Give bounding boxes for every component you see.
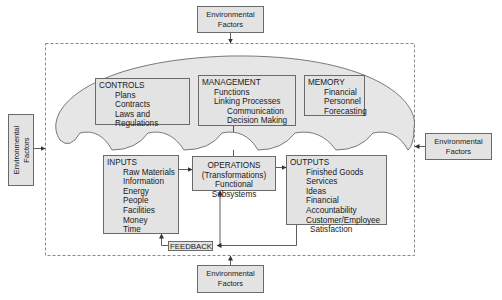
management-box: MANAGEMENT Functions Linking Processes C… xyxy=(198,75,296,126)
outputs-item: Customer/Employee xyxy=(290,216,383,226)
outputs-box: OUTPUTS Finished Goods Services Ideas Fi… xyxy=(286,155,387,225)
env-factors-bottom: Environmental Factors xyxy=(197,265,264,293)
memory-box: MEMORY Financial Personnel Forecasting xyxy=(304,75,365,116)
operations-title: OPERATIONS xyxy=(196,161,272,171)
controls-item: Laws and Regulations xyxy=(99,110,186,129)
env-left-line1: Environmental xyxy=(12,115,22,185)
outputs-item: Ideas xyxy=(290,187,383,197)
management-item: Linking Processes xyxy=(202,97,292,107)
env-bottom-line1: Environmental xyxy=(198,269,263,279)
inputs-box: INPUTS Raw Materials Information Energy … xyxy=(103,155,179,234)
controls-box: CONTROLS Plans Contracts Laws and Regula… xyxy=(95,78,190,125)
memory-item: Forecasting xyxy=(308,107,361,117)
feedback-label: FEEDBACK xyxy=(168,241,213,251)
inputs-item: Money xyxy=(107,216,175,226)
management-title: MANAGEMENT xyxy=(202,78,292,88)
inputs-item: Energy xyxy=(107,187,175,197)
open-systems-diagram: Environmental Factors Environmental Fact… xyxy=(0,0,502,300)
operations-subtitle: (Transformations) xyxy=(196,171,272,181)
env-right-line2: Factors xyxy=(426,147,491,157)
management-subitem: Decision Making xyxy=(202,116,292,126)
env-bottom-line2: Factors xyxy=(198,279,263,289)
inputs-item: People xyxy=(107,196,175,206)
outputs-item: Financial Accountability xyxy=(290,196,383,215)
memory-item: Financial xyxy=(308,88,361,98)
management-item: Functions xyxy=(202,88,292,98)
env-left-line2: Factors xyxy=(22,115,32,185)
controls-item: Contracts xyxy=(99,100,186,110)
inputs-item: Information xyxy=(107,177,175,187)
controls-item: Plans xyxy=(99,91,186,101)
inputs-item: Time xyxy=(107,225,175,235)
memory-title: MEMORY xyxy=(308,78,361,88)
inputs-item: Facilities xyxy=(107,206,175,216)
env-factors-left: Environmental Factors xyxy=(8,114,34,186)
memory-item: Personnel xyxy=(308,97,361,107)
env-top-line2: Factors xyxy=(198,20,263,30)
operations-box: OPERATIONS (Transformations) Functional … xyxy=(192,156,276,191)
outputs-title: OUTPUTS xyxy=(290,158,383,168)
outputs-item: Finished Goods xyxy=(290,168,383,178)
controls-title: CONTROLS xyxy=(99,81,186,91)
env-factors-top: Environmental Factors xyxy=(197,6,264,33)
operations-detail: Functional Subsystems xyxy=(196,180,272,199)
outputs-item: Services xyxy=(290,177,383,187)
outputs-item-continuation: Satisfaction xyxy=(290,225,383,235)
management-subitem: Communication xyxy=(202,107,292,117)
env-top-line1: Environmental xyxy=(198,10,263,20)
inputs-item: Raw Materials xyxy=(107,168,175,178)
env-factors-right: Environmental Factors xyxy=(425,133,492,160)
env-right-line1: Environmental xyxy=(426,137,491,147)
inputs-title: INPUTS xyxy=(107,158,175,168)
